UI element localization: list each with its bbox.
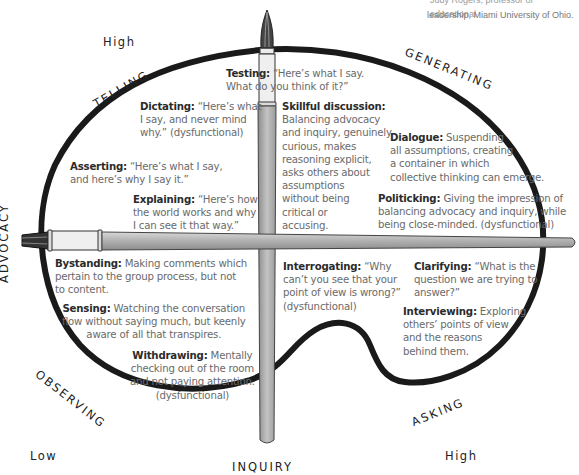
credit-line-2: leadership, Miami University of Ohio.	[427, 8, 574, 22]
item-withdrawing: Withdrawing: Mentally checking out of th…	[130, 349, 255, 402]
item-skillful-discussion: Skillful discussion: Balancing advocacy …	[282, 100, 392, 232]
item-dictating: Dictating: “Here’s what I say, and never…	[140, 100, 261, 140]
item-interviewing: Interviewing: Exploring others’ points o…	[403, 305, 526, 358]
item-dialogue: Dialogue: Suspending all assumptions, cr…	[390, 131, 544, 184]
item-explaining: Explaining: “Here’s how the world works …	[133, 193, 258, 233]
item-clarifying: Clarifying: “What is the question we are…	[414, 260, 537, 300]
axis-inquiry-high-label: High	[445, 449, 477, 463]
item-bystanding: Bystanding: Making comments which pertai…	[55, 257, 247, 297]
axis-inquiry-label: INQUIRY	[232, 460, 293, 474]
horizontal-brush	[22, 230, 575, 251]
item-politicking: Politicking: Giving the impression of ba…	[378, 192, 566, 232]
axis-advocacy-high-label: High	[103, 35, 135, 49]
item-sensing: Sensing: Watching the conversation flow …	[62, 302, 246, 342]
axis-advocacy-label: ADVOCACY	[0, 203, 11, 283]
item-asserting: Asserting: “Here’s what I say, and here’…	[70, 160, 222, 186]
axis-inquiry-low-label: Low	[30, 449, 57, 463]
item-interrogating: Interrogating: “Why can’t you see that y…	[283, 260, 401, 313]
item-testing: Testing: “Here’s what I say. What do you…	[226, 67, 364, 93]
